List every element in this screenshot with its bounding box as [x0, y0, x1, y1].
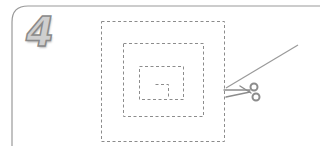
scissors-icon [0, 0, 320, 146]
step-card: 4 [0, 0, 320, 146]
